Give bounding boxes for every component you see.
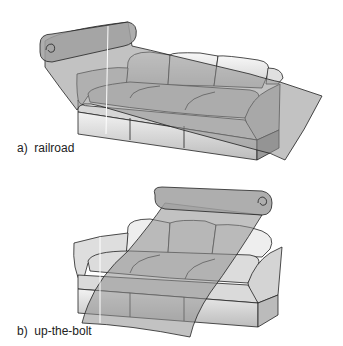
caption-up-the-bolt: b) up-the-bolt [17, 324, 92, 338]
caption-railroad: a) railroad [17, 141, 74, 155]
panel-railroad: a) railroad [0, 0, 343, 175]
up-the-bolt-illustration [0, 175, 343, 346]
panel-up-the-bolt: b) up-the-bolt [0, 175, 343, 346]
